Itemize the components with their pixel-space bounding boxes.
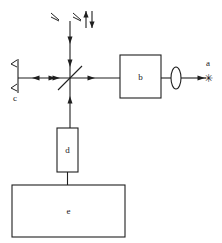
arrow-left-1 [32,76,40,81]
mirror-c-icon [11,59,18,93]
vertical-beam-top [68,21,73,78]
label-e: e [67,206,71,216]
label-a: a [206,58,210,68]
vertical-beam-bottom [68,78,73,128]
arrow-right-3 [88,76,96,81]
top-source-marks [51,11,95,28]
hatch-mark-left-icon [51,13,59,21]
schematic-canvas: c b ✳ a d e [0,0,222,243]
hatch-mark-right-icon [73,13,81,21]
double-arrow-icon [83,11,94,28]
star-icon: ✳ [204,72,213,84]
arrow-right-2 [53,76,61,81]
lens-icon [171,67,181,89]
label-c: c [13,93,17,103]
optical-schematic-figure: c b ✳ a d e [0,0,222,243]
label-d: d [65,145,70,155]
label-b: b [138,72,143,82]
